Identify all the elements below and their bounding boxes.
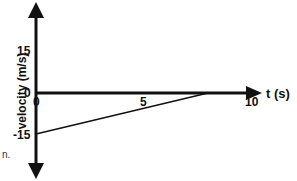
y-axis-down-arrow-icon xyxy=(28,163,44,179)
chart-canvas xyxy=(0,0,297,181)
y-axis-up-arrow-icon xyxy=(28,2,44,18)
text-fragment: n. xyxy=(2,149,10,160)
velocity-line xyxy=(36,93,208,134)
x-axis-label: t (s) xyxy=(266,86,290,101)
x-tick-10: 10 xyxy=(245,95,258,109)
x-tick-5: 5 xyxy=(140,95,147,109)
x-tick-0: 0 xyxy=(33,95,40,109)
y-axis-label: velocity (m/s) xyxy=(15,51,29,131)
